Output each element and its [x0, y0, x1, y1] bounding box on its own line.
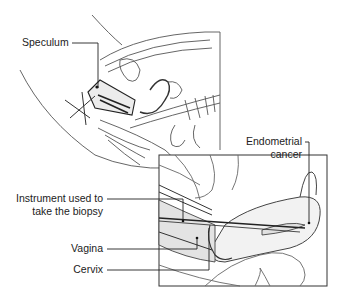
- label-endometrial-cancer-line1: Endometrial: [238, 135, 302, 148]
- label-endometrial-cancer-line2: cancer: [238, 148, 302, 161]
- label-cervix: Cervix: [0, 263, 103, 276]
- anatomy-figure: Speculum Endometrial cancer Instrument u…: [0, 0, 344, 307]
- label-instrument-line2: take the biopsy: [0, 205, 103, 218]
- label-vagina: Vagina: [0, 242, 103, 255]
- label-speculum: Speculum: [22, 36, 69, 49]
- label-instrument-line1: Instrument used to: [0, 192, 103, 205]
